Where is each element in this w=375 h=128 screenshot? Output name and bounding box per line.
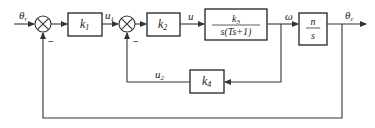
minus-sign: − [48,36,54,47]
svg-text:s: s [311,30,315,41]
input-signal: θr [14,9,34,24]
svg-text:n: n [311,16,316,27]
output-label: θc [345,9,354,23]
block-plant: k3 s(Ts+1) [205,9,267,40]
summing-junction-2: − [119,16,139,47]
summing-junction-1: − [35,16,54,47]
block-k1: k1 [68,13,102,36]
block-integrator: n s [299,13,327,45]
svg-text:s(Ts+1): s(Ts+1) [221,26,253,38]
svg-text:u2: u2 [155,68,165,82]
minus-sign: − [133,36,139,47]
block-diagram: θr − k1 u1 − k2 u k3 s(Ts+1) ω [0,0,375,128]
u-label: u [188,10,194,22]
block-k2: k2 [147,13,180,36]
svg-text:θr: θr [19,9,27,23]
omega-label: ω [285,10,293,22]
u1-label: u1 [105,9,114,23]
